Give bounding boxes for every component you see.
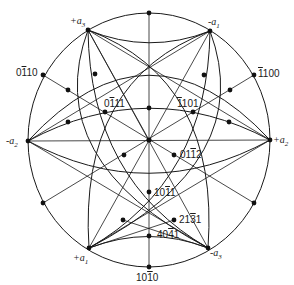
line-a1-to-a2 (28, 31, 210, 141)
label-pole-4041: 4041 (157, 229, 180, 240)
label-pole-0110: 0110 (16, 67, 38, 78)
label-minus-a1: -a1 (208, 16, 220, 30)
label-pole-2131: 2131 (179, 214, 202, 225)
label-plus-a1: +a1 (73, 252, 88, 266)
label-pole-1010: 1010 (136, 272, 159, 283)
label-pole-1011: 1011 (154, 187, 176, 198)
label-minus-a2: -a2 (6, 135, 18, 149)
label-pole-1100: 1100 (258, 68, 280, 79)
label-minus-a3: -a3 (210, 247, 222, 261)
line-a3-center (88, 30, 149, 140)
label-pole-0112: 0112 (180, 149, 202, 160)
label-pole-1101: 1101 (177, 98, 199, 109)
stereographic-projection: +a3 -a1 -a2 +a2 +a1 -a3 0110 1100 0111 1… (0, 0, 294, 285)
line-a3-to-a2 (88, 30, 270, 140)
label-plus-a3: +a3 (70, 15, 86, 29)
label-plus-a2: +a2 (273, 134, 289, 148)
label-pole-0111: 0111 (104, 98, 125, 109)
